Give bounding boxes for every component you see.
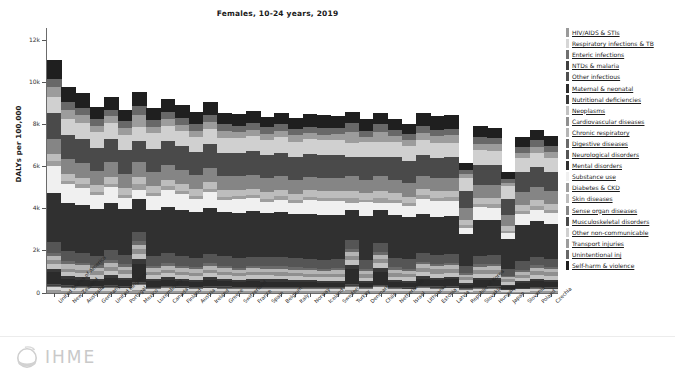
bar-segment xyxy=(388,203,403,215)
bar-new-zealand[interactable] xyxy=(61,87,76,294)
y-tick-label: 12k xyxy=(29,36,40,43)
bar-united-states-of-america[interactable] xyxy=(47,60,62,293)
x-tick-label: Portugal xyxy=(128,300,132,304)
x-tick-label: United States of America xyxy=(57,300,61,304)
bar-united-kingdom[interactable] xyxy=(104,97,119,293)
bar-segment xyxy=(260,117,275,128)
bar-mexico[interactable] xyxy=(132,92,147,293)
bar-segment xyxy=(203,144,218,168)
legend-item[interactable]: Other infectious xyxy=(566,71,674,82)
bar-segment xyxy=(260,140,275,155)
legend-item[interactable]: Respiratory infections & TB xyxy=(566,38,674,49)
bar-segment xyxy=(530,153,545,167)
x-tick-label: Hungary xyxy=(497,300,501,304)
legend-item[interactable]: Chronic respiratory xyxy=(566,127,674,138)
bar-segment xyxy=(175,256,190,266)
legend-item[interactable]: Musculoskeletal disorders xyxy=(566,216,674,227)
bar-slovenia[interactable] xyxy=(515,137,530,293)
bar-chile[interactable] xyxy=(373,113,388,293)
bar-czechia[interactable] xyxy=(544,136,558,293)
bar-italy[interactable] xyxy=(288,118,303,293)
bar-segment xyxy=(161,99,176,112)
x-tick-label: United Kingdom xyxy=(114,300,118,304)
bar-poland[interactable] xyxy=(530,130,545,293)
legend-item[interactable]: Skin diseases xyxy=(566,193,674,204)
bar-greece[interactable] xyxy=(217,113,232,293)
legend-swatch xyxy=(566,117,569,126)
legend-item[interactable]: Mental disorders xyxy=(566,160,674,171)
legend-item[interactable]: HIV/AIDS & STIs xyxy=(566,27,674,38)
bar-segment xyxy=(161,190,176,207)
legend-item[interactable]: NTDs & malaria xyxy=(566,60,674,71)
bar-australia[interactable] xyxy=(75,93,90,293)
bar-spain[interactable] xyxy=(260,117,275,294)
bar-republic-of-korea[interactable] xyxy=(459,163,474,293)
bar-estonia[interactable] xyxy=(430,116,445,293)
bar-segment xyxy=(217,176,232,190)
bar-segment xyxy=(444,129,459,136)
bar-segment xyxy=(75,123,90,139)
bar-portugal[interactable] xyxy=(118,110,133,293)
legend-item[interactable]: Digestive diseases xyxy=(566,138,674,149)
legend-item[interactable]: Neurological disorders xyxy=(566,149,674,160)
bar-israel[interactable] xyxy=(402,124,417,293)
bar-norway[interactable] xyxy=(303,114,318,293)
bar-latvia[interactable] xyxy=(444,115,459,293)
bar-belgium[interactable] xyxy=(274,113,289,293)
bar-segment xyxy=(317,155,332,178)
bar-segment xyxy=(118,121,133,128)
bar-finland[interactable] xyxy=(175,105,190,293)
bar-segment xyxy=(217,256,232,266)
legend-item[interactable]: Transport injuries xyxy=(566,238,674,249)
legend-item[interactable]: Diabetes & CKD xyxy=(566,182,674,193)
legend-item[interactable]: Substance use xyxy=(566,171,674,182)
legend-swatch xyxy=(566,95,569,104)
bar-segment xyxy=(416,133,431,141)
legend-item[interactable]: Nutritional deficiencies xyxy=(566,94,674,105)
bar-slovakia[interactable] xyxy=(473,126,488,293)
bar-japan[interactable] xyxy=(501,172,516,293)
bar-canada[interactable] xyxy=(161,99,176,293)
bar-segment xyxy=(430,178,445,191)
x-tick-label: Austria xyxy=(199,300,203,304)
legend-item[interactable]: Self-harm & violence xyxy=(566,260,674,271)
bar-segment xyxy=(473,126,488,137)
bar-segment xyxy=(61,159,76,174)
bar-turkey[interactable] xyxy=(345,112,360,293)
bar-segment xyxy=(487,165,502,185)
bar-france[interactable] xyxy=(246,111,261,293)
bar-denmark[interactable] xyxy=(359,119,374,293)
bar-segment xyxy=(317,260,332,269)
legend-item[interactable]: Other non-communicable xyxy=(566,227,674,238)
bar-segment xyxy=(246,151,261,174)
bar-segment xyxy=(47,193,62,242)
legend-item[interactable]: Unintentional inj xyxy=(566,249,674,260)
bar-austria[interactable] xyxy=(189,112,204,293)
bar-segment xyxy=(373,132,388,142)
legend-label: Self-harm & violence xyxy=(572,261,634,270)
bar-segment xyxy=(118,150,133,173)
bar-segment xyxy=(75,108,90,115)
bar-segment xyxy=(104,162,119,176)
bar-segment xyxy=(303,214,318,259)
bar-segment xyxy=(61,119,76,135)
legend-item[interactable]: Maternal & neonatal xyxy=(566,82,674,93)
legend-item[interactable]: Neoplasms xyxy=(566,105,674,116)
bar-segment xyxy=(317,178,332,192)
bar-segment xyxy=(345,112,360,123)
legend-item[interactable]: Cardiovascular diseases xyxy=(566,116,674,127)
legend-item[interactable]: Enteric infections xyxy=(566,49,674,60)
bar-sweden[interactable] xyxy=(331,116,346,293)
bar-lithuania[interactable] xyxy=(416,113,431,293)
bar-luxembourg[interactable] xyxy=(146,108,161,293)
legend-item[interactable]: Sense organ diseases xyxy=(566,205,674,216)
bar-netherlands[interactable] xyxy=(388,119,403,293)
bar-ireland[interactable] xyxy=(203,102,218,293)
bar-iceland[interactable] xyxy=(317,115,332,293)
bar-switzerland[interactable] xyxy=(232,114,247,293)
bar-segment xyxy=(217,200,232,211)
bar-segment xyxy=(75,139,90,163)
x-tick-label: Iceland xyxy=(327,300,331,304)
bar-segment xyxy=(487,185,502,198)
bar-segment xyxy=(146,108,161,120)
